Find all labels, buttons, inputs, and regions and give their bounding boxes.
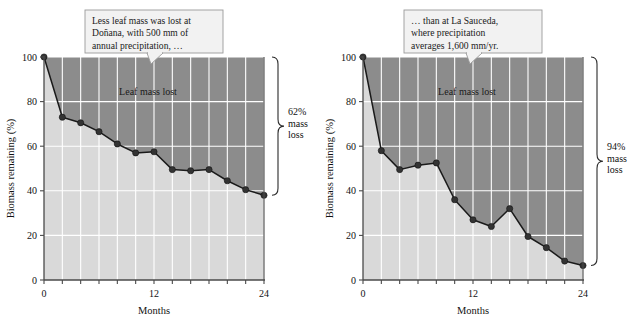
leaf-mass-lost-label: Leaf mass lost (119, 86, 177, 97)
mass-loss-brace (591, 57, 603, 266)
x-tick-label: 24 (578, 288, 588, 299)
y-tick-label: 0 (32, 275, 37, 286)
mass-loss-brace-label: loss (607, 164, 623, 175)
y-tick-label: 20 (346, 230, 356, 241)
x-tick-label: 0 (361, 288, 366, 299)
x-tick-label: 12 (149, 288, 159, 299)
data-point (59, 114, 65, 120)
y-tick-label: 0 (351, 275, 356, 286)
data-point (378, 148, 384, 154)
data-point (169, 167, 175, 173)
data-point (133, 150, 139, 156)
chart-panel-donana: 02040608010001224MonthsBiomass remaining… (0, 0, 319, 325)
data-point (562, 258, 568, 264)
data-point (78, 120, 84, 126)
mass-loss-brace (272, 57, 284, 195)
callout-line: annual precipitation, … (92, 40, 183, 51)
data-point (114, 141, 120, 147)
x-axis-title: Months (138, 305, 170, 316)
callout-line: Less leaf mass was lost at (92, 15, 191, 26)
callout-box: … than at La Sauceda,where precipitation… (404, 10, 542, 64)
callout-tail-joint (467, 51, 481, 54)
callout-tail-joint (148, 51, 162, 54)
x-tick-label: 24 (259, 288, 269, 299)
x-tick-label: 0 (42, 288, 47, 299)
y-tick-label: 60 (27, 141, 37, 152)
data-point (188, 168, 194, 174)
y-axis-title: Biomass remaining (%) (324, 118, 336, 218)
callout-box: Less leaf mass was lost atDoñana, with 5… (85, 10, 223, 64)
figure-two-panel-biomass-decay: 02040608010001224MonthsBiomass remaining… (0, 0, 638, 325)
y-tick-label: 100 (22, 52, 37, 63)
data-point (507, 206, 513, 212)
chart-panel-la-sauceda: 02040608010001224MonthsBiomass remaining… (319, 0, 638, 325)
y-tick-label: 20 (27, 230, 37, 241)
mass-loss-brace-label: 62% (288, 106, 306, 117)
data-point (433, 160, 439, 166)
y-tick-label: 100 (341, 52, 356, 63)
data-point (470, 217, 476, 223)
y-axis-title: Biomass remaining (%) (5, 118, 17, 218)
x-axis-title: Months (457, 305, 489, 316)
data-point (415, 162, 421, 168)
data-point (151, 149, 157, 155)
mass-loss-brace-label: 94% (607, 141, 625, 152)
data-point (543, 245, 549, 251)
data-point (452, 197, 458, 203)
callout-line: averages 1,600 mm/yr. (411, 40, 498, 51)
data-point (206, 167, 212, 173)
callout-line: where precipitation (411, 27, 486, 38)
y-tick-label: 80 (27, 96, 37, 107)
y-tick-label: 80 (346, 96, 356, 107)
panel-donana: 02040608010001224MonthsBiomass remaining… (0, 0, 319, 325)
callout-line: … than at La Sauceda, (411, 15, 498, 26)
mass-loss-brace-label: mass (607, 153, 627, 164)
data-point (243, 187, 249, 193)
data-point (224, 178, 230, 184)
data-point (525, 233, 531, 239)
data-point (488, 223, 494, 229)
mass-loss-brace-label: mass (288, 118, 308, 129)
x-tick-label: 12 (468, 288, 478, 299)
y-tick-label: 60 (346, 141, 356, 152)
leaf-mass-lost-label: Leaf mass lost (438, 86, 496, 97)
mass-loss-brace-label: loss (288, 129, 304, 140)
callout-line: Doñana, with 500 mm of (92, 27, 189, 38)
data-point (397, 167, 403, 173)
data-point (96, 129, 102, 135)
y-tick-label: 40 (27, 185, 37, 196)
panel-la-sauceda: 02040608010001224MonthsBiomass remaining… (319, 0, 638, 325)
y-tick-label: 40 (346, 185, 356, 196)
